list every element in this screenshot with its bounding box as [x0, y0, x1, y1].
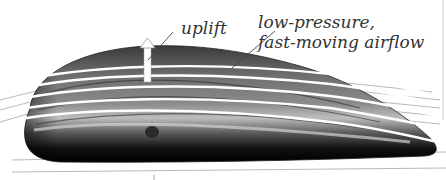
uplift-label: uplift [181, 18, 227, 38]
airflow-label: low-pressure, fast-moving airflow [258, 12, 424, 52]
airflow-label-line-2: fast-moving airflow [258, 32, 424, 52]
wing-knob [145, 126, 159, 138]
wing-diagram: uplift low-pressure, fast-moving airflow [0, 0, 446, 180]
airflow-label-line-1: low-pressure, [258, 12, 424, 32]
